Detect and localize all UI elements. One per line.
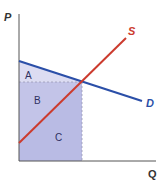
region-a-label: A	[25, 70, 32, 81]
y-axis-label: P	[4, 11, 12, 23]
supply-label: S	[128, 25, 136, 37]
region-c-label: C	[55, 132, 62, 143]
x-axis-label: Q	[148, 168, 157, 180]
region-b-label: B	[34, 95, 41, 106]
demand-label: D	[146, 97, 154, 109]
supply-demand-diagram: P Q S D A B C	[0, 0, 164, 185]
